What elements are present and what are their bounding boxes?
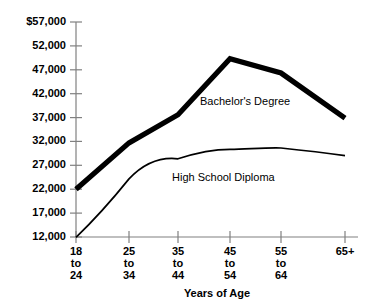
y-tick-label: 47,000 xyxy=(32,63,66,75)
y-tick-label: 52,000 xyxy=(32,39,66,51)
x-tick-label-line: 54 xyxy=(224,269,237,281)
x-tick-label-line: to xyxy=(276,257,287,269)
x-tick-label-line: 44 xyxy=(172,269,185,281)
y-tick-label: 22,000 xyxy=(32,182,66,194)
series-label-high-school-diploma: High School Diploma xyxy=(172,171,276,183)
x-tick-label-group: 25 to 34 xyxy=(123,245,136,281)
y-tick-label: 37,000 xyxy=(32,111,66,123)
x-tick-label-line: to xyxy=(71,257,82,269)
x-tick-label-group: 18 to 24 xyxy=(70,245,83,281)
series-line-bachelors-degree xyxy=(76,59,345,190)
y-tick-label: 17,000 xyxy=(32,206,66,218)
y-tick-labels: $57,000 52,000 47,000 42,000 37,000 32,0… xyxy=(26,15,66,242)
series-line-high-school-diploma xyxy=(76,148,345,237)
x-tick-label-line: to xyxy=(173,257,184,269)
x-tick-label-line: to xyxy=(225,257,236,269)
x-tick-label-line: 34 xyxy=(123,269,136,281)
x-tick-label-line: 24 xyxy=(70,269,83,281)
x-axis-title: Years of Age xyxy=(184,287,250,299)
x-tick-label-line: 55 xyxy=(275,245,287,257)
chart-canvas: $57,000 52,000 47,000 42,000 37,000 32,0… xyxy=(0,0,371,305)
x-tick-label-line: 25 xyxy=(123,245,135,257)
x-tick-label-line: 18 xyxy=(70,245,82,257)
x-tick-label-line: 45 xyxy=(224,245,236,257)
x-tick-label-line: 64 xyxy=(275,269,288,281)
series-label-bachelors-degree: Bachelor's Degree xyxy=(200,95,290,107)
x-tick-label-group: 35 to 44 xyxy=(172,245,185,281)
x-tick-labels: 18 to 24 25 to 34 35 to 44 45 to 54 55 t xyxy=(70,245,354,281)
axes-group xyxy=(76,22,358,237)
x-tick-label-group: 55 to 64 xyxy=(275,245,288,281)
y-tick-label: 12,000 xyxy=(32,230,66,242)
y-tick-label: 32,000 xyxy=(32,134,66,146)
x-tick-label-line: 65+ xyxy=(336,245,355,257)
y-tick-label: 27,000 xyxy=(32,158,66,170)
x-tick-label-group: 45 to 54 xyxy=(224,245,237,281)
x-tick-label-line: 35 xyxy=(172,245,184,257)
y-tick-label: 42,000 xyxy=(32,87,66,99)
x-tick-label-line: to xyxy=(124,257,135,269)
y-tick-label: $57,000 xyxy=(26,15,66,27)
x-tick-label-group: 65+ xyxy=(336,245,355,257)
line-chart: $57,000 52,000 47,000 42,000 37,000 32,0… xyxy=(0,0,371,305)
